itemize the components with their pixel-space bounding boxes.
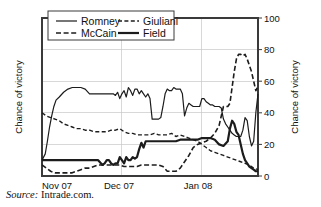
legend-label-romney: Romney [81, 15, 121, 27]
source-value: Intrade.com. [38, 189, 94, 200]
legend-label-giuliani: Giuliani [143, 15, 178, 27]
y-tick-label: 100 [264, 13, 280, 24]
intrade-line-chart: 020406080100 Nov 07Dec 07Jan 08 Chance o… [0, 0, 321, 207]
y-axis-title-right: Chance of victory [289, 60, 300, 134]
legend: RomneyGiulianiMcCainField [48, 11, 178, 40]
y-axis-title-left: Chance of victory [13, 60, 24, 134]
legend-label-mccain: McCain [81, 27, 117, 39]
x-tick-label: Dec 07 [104, 180, 134, 191]
legend-label-field: Field [143, 27, 166, 39]
source-note: Source: Intrade.com. [6, 189, 94, 200]
y-tick-label: 40 [264, 107, 275, 118]
chart-figure: 020406080100 Nov 07Dec 07Jan 08 Chance o… [0, 0, 321, 207]
x-tick-label: Jan 08 [184, 180, 213, 191]
y-tick-label: 20 [264, 139, 275, 150]
y-tick-label: 0 [264, 171, 269, 182]
plot-background [42, 18, 258, 176]
y-axis-tick-labels: 020406080100 [258, 13, 280, 182]
source-label: Source: [6, 189, 38, 200]
y-tick-label: 60 [264, 76, 275, 87]
y-tick-label: 80 [264, 44, 275, 55]
